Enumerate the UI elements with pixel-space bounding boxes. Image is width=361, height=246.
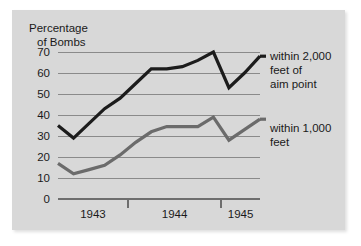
y-axis-title-line-1: Percentage — [29, 22, 88, 34]
y-tick-label-0: 0 — [44, 193, 50, 205]
legend-item-within-2000-feet-line-1: within 2,000 — [269, 50, 331, 62]
chart-figure: Percentage of Bombs 010203040506070 1943… — [0, 0, 361, 246]
line-chart: Percentage of Bombs 010203040506070 1943… — [12, 10, 345, 230]
legend-item-within-1000-feet-line-2: feet — [270, 136, 290, 148]
x-axis-tick-labels: 194319441945 — [80, 208, 253, 220]
x-tick-label-1945: 1945 — [228, 208, 254, 220]
y-tick-label-60: 60 — [37, 67, 50, 79]
y-axis-title: Percentage of Bombs — [29, 22, 88, 48]
legend-item-within-2000-feet-line-2: feet of — [270, 64, 303, 76]
y-tick-label-40: 40 — [37, 109, 50, 121]
legend-item-within-1000-feet-line-1: within 1,000 — [269, 122, 331, 134]
y-tick-label-50: 50 — [37, 88, 50, 100]
legend-item-within-2000-feet-line-3: aim point — [270, 78, 317, 90]
chart-panel: Percentage of Bombs 010203040506070 1943… — [12, 10, 345, 230]
x-tick-label-1944: 1944 — [162, 208, 188, 220]
y-tick-label-10: 10 — [37, 172, 50, 184]
y-tick-label-20: 20 — [37, 151, 50, 163]
data-series-group — [58, 52, 266, 174]
x-axis-tick-marks — [128, 199, 221, 208]
chart-legend: within 2,000 feet of aim point within 1,… — [269, 50, 331, 148]
y-axis-tick-labels: 010203040506070 — [37, 46, 50, 205]
x-tick-label-1943: 1943 — [80, 208, 106, 220]
series-line-within-2000-feet — [58, 52, 260, 138]
y-tick-label-30: 30 — [37, 130, 50, 142]
y-tick-label-70: 70 — [37, 46, 50, 58]
